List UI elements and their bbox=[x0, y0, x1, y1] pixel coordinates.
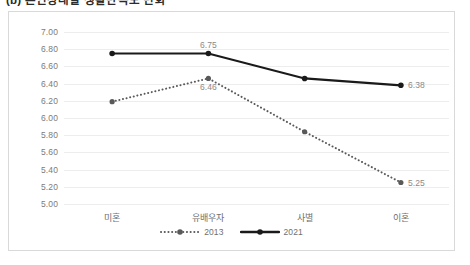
data-point-2021 bbox=[206, 51, 212, 57]
data-point-2013 bbox=[398, 180, 403, 185]
gridline bbox=[64, 204, 449, 205]
y-axis-tick: 5.00 bbox=[41, 199, 58, 209]
figure-caption: (b) 혼인상태별 생활만족도 변화 bbox=[6, 0, 166, 7]
data-label: 5.25 bbox=[408, 178, 425, 188]
legend-label: 2013 bbox=[204, 227, 223, 237]
legend-swatch-2013 bbox=[160, 227, 200, 237]
legend-item-2021[interactable]: 2021 bbox=[240, 227, 303, 237]
series-line-2013 bbox=[112, 78, 401, 182]
data-label: 6.46 bbox=[200, 82, 217, 92]
legend-label: 2021 bbox=[284, 227, 303, 237]
data-label: 6.38 bbox=[408, 80, 425, 90]
data-point-2013 bbox=[206, 76, 211, 81]
y-axis-tick: 6.00 bbox=[41, 113, 58, 123]
plot-area: 7.006.806.606.406.206.005.805.605.405.20… bbox=[64, 32, 449, 204]
data-point-2021 bbox=[398, 83, 404, 89]
chart-frame: 7.006.806.606.406.206.005.805.605.405.20… bbox=[8, 11, 455, 251]
y-axis-tick: 5.60 bbox=[41, 147, 58, 157]
y-axis-tick: 6.60 bbox=[41, 61, 58, 71]
data-point-2013 bbox=[110, 99, 115, 104]
data-label: 6.75 bbox=[200, 40, 217, 50]
chart-legend: 20132021 bbox=[9, 227, 454, 237]
series-layer bbox=[64, 32, 449, 204]
y-axis-tick: 6.80 bbox=[41, 44, 58, 54]
y-axis-tick: 5.80 bbox=[41, 130, 58, 140]
x-axis-tick: 유배우자 bbox=[192, 211, 224, 224]
y-axis-tick: 6.20 bbox=[41, 96, 58, 106]
y-axis-tick: 6.40 bbox=[41, 79, 58, 89]
y-axis-tick: 5.40 bbox=[41, 165, 58, 175]
data-point-2021 bbox=[109, 51, 115, 57]
legend-item-2013[interactable]: 2013 bbox=[160, 227, 223, 237]
legend-swatch-2021 bbox=[240, 227, 280, 237]
data-point-2013 bbox=[302, 129, 307, 134]
y-axis-tick: 7.00 bbox=[41, 27, 58, 37]
x-axis-tick: 이혼 bbox=[393, 211, 409, 224]
data-point-2021 bbox=[302, 76, 308, 82]
x-axis-tick: 미혼 bbox=[104, 211, 120, 224]
x-axis-tick: 사별 bbox=[297, 211, 313, 224]
series-line-2021 bbox=[112, 54, 401, 86]
y-axis-tick: 5.20 bbox=[41, 182, 58, 192]
